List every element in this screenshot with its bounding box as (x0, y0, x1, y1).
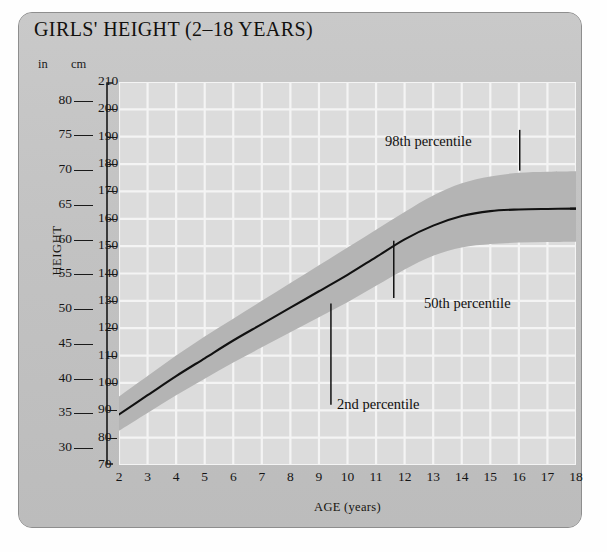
y-tick-in-50: 50 (42, 301, 72, 315)
y-tick-mark-in-45 (74, 344, 93, 345)
x-tick-age-3: 3 (134, 470, 162, 484)
y-tick-cm-170: 170 (98, 183, 118, 197)
y-tick-cm-190: 190 (98, 129, 118, 143)
y-tick-mark-in-75 (74, 135, 93, 136)
annotation-50th-percentile: 50th percentile (424, 295, 511, 312)
y-tick-mark-in-65 (74, 205, 93, 206)
y-tick-mark-cm-130 (107, 301, 117, 302)
y-tick-in-70: 70 (42, 162, 72, 176)
y-tick-mark-in-55 (74, 274, 93, 275)
x-tick-age-12: 12 (391, 470, 419, 484)
x-tick-age-18: 18 (562, 470, 590, 484)
y-tick-cm-120: 120 (98, 320, 118, 334)
x-tick-age-2: 2 (105, 470, 133, 484)
page-title: GIRLS' HEIGHT (2–18 YEARS) (34, 18, 313, 41)
y-tick-mark-in-35 (74, 413, 93, 414)
y-tick-mark-cm-180 (107, 164, 117, 165)
y-tick-mark-in-50 (74, 309, 93, 310)
x-tick-age-8: 8 (276, 470, 304, 484)
y-tick-cm-130: 130 (98, 293, 118, 307)
y-tick-cm-110: 110 (98, 348, 118, 362)
y-tick-cm-100: 100 (98, 375, 118, 389)
y-tick-in-80: 80 (42, 93, 72, 107)
x-tick-age-16: 16 (505, 470, 533, 484)
y-tick-mark-cm-200 (107, 109, 117, 110)
y-tick-in-60: 60 (42, 232, 72, 246)
y-tick-in-75: 75 (42, 127, 72, 141)
y-tick-cm-140: 140 (98, 266, 118, 280)
y-tick-mark-cm-160 (107, 219, 117, 220)
y-tick-cm-210: 210 (98, 74, 118, 88)
y-tick-cm-150: 150 (98, 238, 118, 252)
y-tick-mark-cm-170 (107, 191, 117, 192)
x-tick-age-14: 14 (448, 470, 476, 484)
y-tick-in-35: 35 (42, 405, 72, 419)
y-tick-mark-in-80 (74, 101, 93, 102)
x-tick-age-9: 9 (305, 470, 333, 484)
x-tick-age-10: 10 (334, 470, 362, 484)
y-axis-unit-centimeters: cm (71, 57, 86, 72)
y-tick-cm-90: 90 (98, 402, 112, 416)
x-tick-age-4: 4 (162, 470, 190, 484)
y-tick-mark-cm-100 (107, 383, 117, 384)
page-root: GIRLS' HEIGHT (2–18 YEARS) in cm HEIGHT … (0, 0, 607, 552)
y-tick-mark-in-60 (74, 240, 93, 241)
x-axis-title: AGE (years) (119, 500, 576, 515)
y-tick-cm-180: 180 (98, 156, 118, 170)
y-tick-mark-in-40 (74, 379, 93, 380)
y-tick-in-40: 40 (42, 371, 72, 385)
x-tick-age-13: 13 (419, 470, 447, 484)
x-tick-age-7: 7 (248, 470, 276, 484)
y-tick-mark-cm-150 (107, 246, 117, 247)
y-tick-cm-80: 80 (98, 430, 112, 444)
y-tick-mark-in-70 (74, 170, 93, 171)
y-tick-mark-cm-90 (107, 410, 117, 411)
x-tick-age-5: 5 (191, 470, 219, 484)
x-tick-age-17: 17 (533, 470, 561, 484)
y-tick-mark-cm-80 (107, 438, 117, 439)
y-tick-cm-200: 200 (98, 101, 118, 115)
y-axis-unit-inches: in (38, 57, 48, 72)
annotation-2nd-percentile: 2nd percentile (337, 396, 420, 413)
y-tick-cm-70: 70 (98, 457, 112, 471)
x-tick-age-11: 11 (362, 470, 390, 484)
y-tick-mark-in-30 (74, 448, 93, 449)
y-tick-mark-cm-190 (107, 137, 117, 138)
x-tick-age-6: 6 (219, 470, 247, 484)
y-tick-cm-160: 160 (98, 211, 118, 225)
y-tick-mark-cm-120 (107, 328, 117, 329)
annotation-98th-percentile: 98th percentile (385, 133, 472, 150)
y-tick-in-30: 30 (42, 440, 72, 454)
y-tick-mark-cm-140 (107, 274, 117, 275)
y-tick-in-45: 45 (42, 336, 72, 350)
y-tick-mark-cm-110 (107, 356, 117, 357)
y-tick-in-55: 55 (42, 266, 72, 280)
x-tick-age-15: 15 (476, 470, 504, 484)
y-tick-in-65: 65 (42, 197, 72, 211)
